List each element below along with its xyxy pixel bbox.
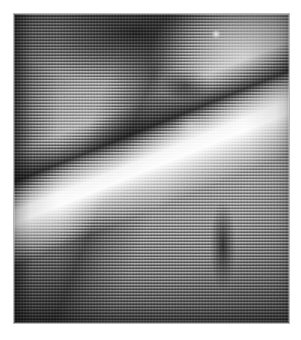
- halftone-dot-beat-layer: [14, 14, 289, 323]
- plate-edge-layer: [14, 14, 289, 323]
- vignette-layer: [14, 14, 289, 323]
- halftone-line-screen-layer: [14, 14, 289, 323]
- continuous-tone-layer: [14, 14, 289, 323]
- image-canvas: Halftone-screened monochrome photograph: [0, 0, 301, 340]
- paper-grain-layer: [14, 14, 289, 323]
- photograph-plate: [14, 14, 289, 323]
